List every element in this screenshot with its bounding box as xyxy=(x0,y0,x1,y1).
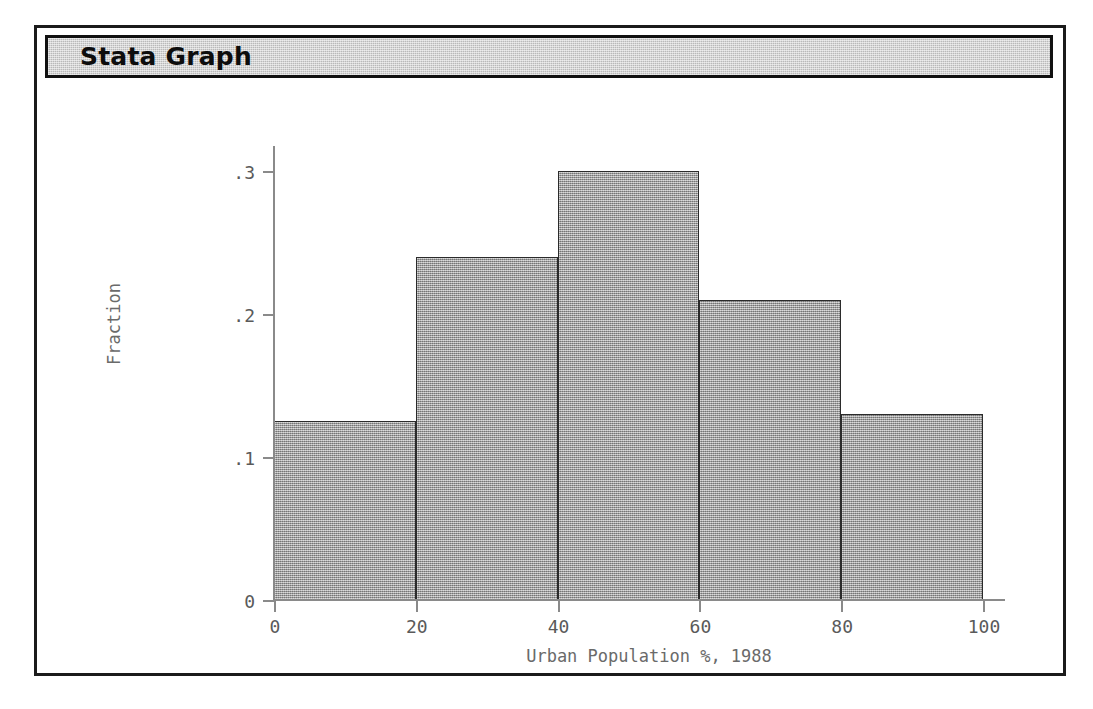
y-tick-mark xyxy=(263,457,274,459)
y-tick-mark xyxy=(263,171,274,173)
y-tick-label: .3 xyxy=(207,162,255,183)
x-tick-label: 20 xyxy=(387,616,447,637)
stata-graph-window: Stata Graph 0.1.2.3 020406080100 Fractio… xyxy=(34,25,1066,676)
x-tick-mark xyxy=(416,601,418,612)
histogram-bar xyxy=(699,300,841,600)
y-tick-mark xyxy=(263,600,274,602)
x-axis-title: Urban Population %, 1988 xyxy=(293,646,1005,666)
y-tick-label: .1 xyxy=(207,448,255,469)
x-tick-mark xyxy=(558,601,560,612)
x-tick-mark xyxy=(699,601,701,612)
bar-series xyxy=(37,86,1063,673)
y-tick-label: 0 xyxy=(207,591,255,612)
y-axis-line xyxy=(273,146,275,600)
x-tick-mark xyxy=(983,601,985,612)
x-tick-label: 40 xyxy=(529,616,589,637)
histogram-bar xyxy=(558,171,700,600)
x-tick-label: 80 xyxy=(812,616,872,637)
histogram-bar xyxy=(416,257,558,600)
y-tick-mark xyxy=(263,314,274,316)
x-tick-label: 60 xyxy=(670,616,730,637)
window-title-bar[interactable]: Stata Graph xyxy=(45,35,1053,78)
x-tick-label: 100 xyxy=(954,616,1014,637)
histogram-bar xyxy=(274,421,416,600)
x-tick-mark xyxy=(841,601,843,612)
y-tick-label: .2 xyxy=(207,305,255,326)
histogram-plot: 0.1.2.3 020406080100 Fraction Urban Popu… xyxy=(37,86,1063,673)
histogram-bar xyxy=(841,414,983,600)
x-tick-mark xyxy=(274,601,276,612)
x-axis-line xyxy=(273,599,1005,601)
y-axis-title: Fraction xyxy=(104,244,124,404)
x-tick-label: 0 xyxy=(245,616,305,637)
window-title: Stata Graph xyxy=(80,42,252,71)
